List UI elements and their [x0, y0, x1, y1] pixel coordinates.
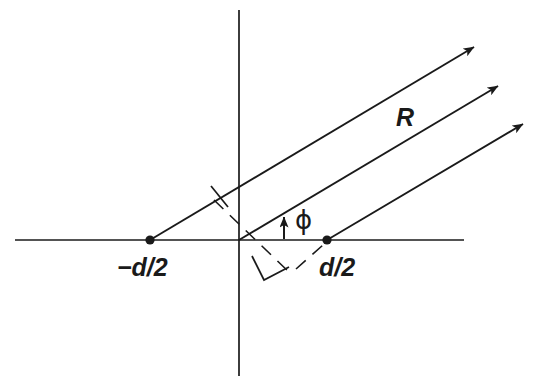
ray-from-right-element: [327, 124, 523, 240]
perpendicular-tick-icon: [211, 186, 228, 207]
physics-diagram-figure: −d/2 d/2 R ϕ: [0, 0, 542, 385]
dashed-wavefront-line: [214, 200, 290, 273]
left-element-label: −d/2: [117, 253, 168, 281]
right-element-point: [322, 235, 331, 244]
axes-group: [15, 10, 464, 376]
left-element-point: [145, 235, 154, 244]
right-element-label: d/2: [319, 253, 355, 281]
phi-angle-label: ϕ: [295, 205, 312, 235]
right-angle-marker-icon: [252, 256, 289, 280]
diagram-canvas: −d/2 d/2 R ϕ: [0, 0, 542, 385]
labels-group: −d/2 d/2 R ϕ: [117, 103, 414, 281]
ray-length-label: R: [396, 103, 414, 131]
rays-group: [150, 47, 523, 240]
